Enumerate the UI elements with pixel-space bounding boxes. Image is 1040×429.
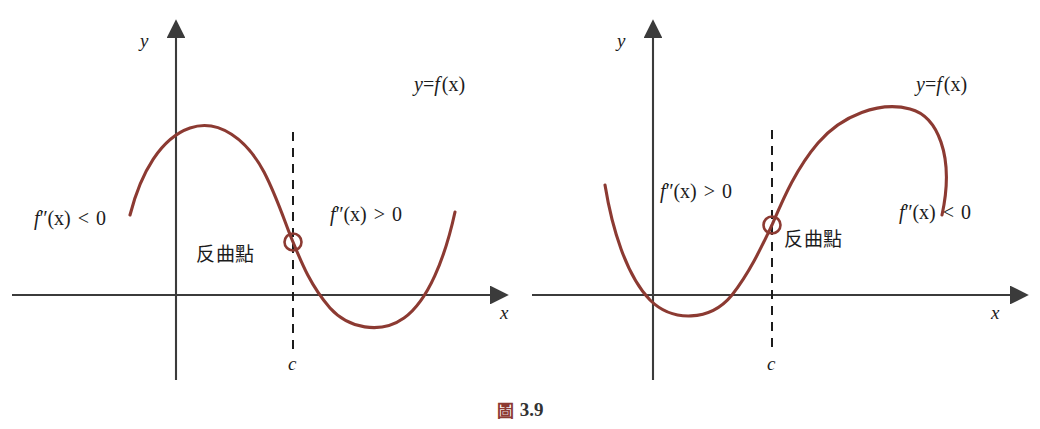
concavity-left-arg: (x): [47, 207, 70, 229]
dashed-line-label-c: c: [767, 354, 775, 373]
y-axis-label: y: [140, 31, 148, 50]
concavity-right-value: 0: [392, 203, 402, 225]
concavity-right-arg: (x): [343, 203, 366, 225]
concavity-right-rel: <: [943, 201, 954, 223]
curve-equation-arg: (x): [944, 73, 967, 95]
function-curve: [605, 107, 946, 316]
figure-caption: 圖 3.9: [0, 390, 1040, 429]
concavity-right-value: 0: [961, 201, 971, 223]
figure-root: y x y=f(x) f″(x)<0 f″(x)>0 反曲點 c: [0, 0, 1040, 429]
inflection-point-label: 反曲點: [784, 230, 843, 249]
curve-equation-f: f: [434, 73, 440, 95]
x-axis-label: x: [991, 303, 999, 322]
curve-equation-arg: (x): [442, 73, 465, 95]
concavity-label-right: f″(x)<0: [899, 202, 971, 222]
concavity-label-right: f″(x)>0: [330, 204, 402, 224]
right-panel-graph: [520, 0, 1040, 390]
concavity-left-arg: (x): [673, 180, 696, 202]
concavity-label-left: f″(x)>0: [660, 181, 732, 201]
curve-equation-f: f: [936, 73, 942, 95]
concavity-left-value: 0: [722, 180, 732, 202]
concavity-left-rel: <: [78, 207, 89, 229]
curve-equation-eq: =: [925, 73, 936, 95]
concavity-left-rel: >: [704, 180, 715, 202]
figure-panel-left: y x y=f(x) f″(x)<0 f″(x)>0 反曲點 c: [0, 0, 520, 390]
curve-equation-y: y: [916, 73, 925, 95]
x-axis-label: x: [500, 303, 508, 322]
concavity-label-left: f″(x)<0: [34, 208, 106, 228]
figure-caption-number: 3.9: [520, 399, 544, 421]
figure-panel-right: y x y=f(x) f″(x)>0 f″(x)<0 反曲點 c: [520, 0, 1040, 390]
dashed-line-label-c: c: [288, 354, 296, 373]
curve-equation-label: y=f(x): [414, 74, 465, 94]
concavity-right-rel: >: [374, 203, 385, 225]
left-panel-graph: [0, 0, 520, 390]
curve-equation-y: y: [414, 73, 423, 95]
y-axis-label: y: [617, 31, 625, 50]
concavity-right-arg: (x): [912, 201, 935, 223]
inflection-point-label: 反曲點: [196, 245, 255, 264]
curve-equation-eq: =: [423, 73, 434, 95]
concavity-left-value: 0: [96, 207, 106, 229]
curve-equation-label: y=f(x): [916, 74, 967, 94]
figure-caption-label: 圖: [497, 397, 514, 422]
